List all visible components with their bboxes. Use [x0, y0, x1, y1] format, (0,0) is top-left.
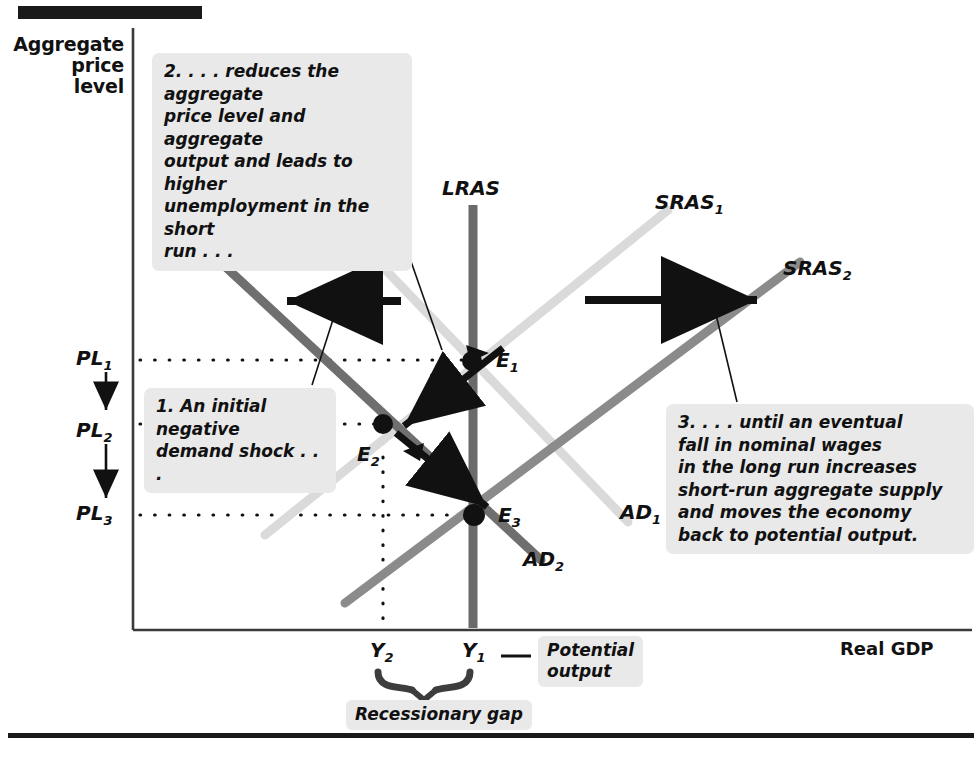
- curve-label-ad2: AD2: [523, 547, 564, 574]
- y-tick-pl2-sub: 2: [103, 430, 112, 445]
- equilibrium-label-e3-sub: 3: [512, 515, 521, 530]
- y-tick-pl1-sub: 1: [103, 358, 112, 373]
- x-tick-y1-text: Y: [462, 638, 476, 662]
- point-e1: [462, 351, 482, 371]
- y-tick-pl3-text: PL: [76, 501, 103, 525]
- callout-step-1-text: 1. An initial negative demand shock . . …: [156, 396, 319, 484]
- equilibrium-label-e1: E1: [496, 348, 519, 375]
- point-e2: [373, 414, 393, 434]
- curve-label-sras1-text: SRAS: [655, 190, 715, 214]
- x-tick-y2: Y2: [370, 638, 394, 665]
- recessionary-gap-brace: [378, 672, 470, 700]
- curve-label-sras2: SRAS2: [783, 256, 852, 283]
- curve-label-ad1-sub: 1: [652, 512, 661, 527]
- callout-step-1: 1. An initial negative demand shock . . …: [144, 388, 336, 493]
- y-tick-pl3: PL3: [76, 501, 112, 528]
- equilibrium-label-e3: E3: [498, 503, 521, 530]
- x-tick-y1-sub: 1: [476, 650, 485, 665]
- curve-label-sras2-sub: 2: [843, 268, 852, 283]
- x-tick-y2-text: Y: [370, 638, 384, 662]
- equilibrium-label-e2: E2: [357, 442, 380, 469]
- y-tick-pl1-text: PL: [76, 346, 103, 370]
- potential-output-tag: Potential output: [538, 636, 643, 687]
- x-tick-y1: Y1: [462, 638, 486, 665]
- equilibrium-label-e1-sub: 1: [510, 360, 519, 375]
- curve-label-sras2-text: SRAS: [783, 256, 843, 280]
- figure-container: Aggregate price level Real GDP: [0, 0, 980, 758]
- callout-step-3: 3. . . . until an eventual fall in nomin…: [666, 404, 974, 554]
- chart-canvas: [0, 0, 980, 758]
- callout-step-3-text: 3. . . . until an eventual fall in nomin…: [678, 412, 942, 545]
- callout-step-2: 2. . . . reduces the aggregate price lev…: [152, 53, 412, 271]
- curve-label-lras-text: LRAS: [442, 176, 500, 200]
- point-e3: [463, 504, 485, 526]
- e1-to-e2-arrow: [404, 345, 503, 426]
- equilibrium-label-e2-sub: 2: [371, 454, 380, 469]
- y-tick-pl2: PL2: [76, 418, 112, 445]
- curve-label-ad2-sub: 2: [555, 559, 564, 574]
- y-tick-pl3-sub: 3: [103, 513, 112, 528]
- curve-label-lras: LRAS: [442, 176, 500, 200]
- recessionary-gap-tag: Recessionary gap: [346, 700, 532, 730]
- curve-label-ad1-text: AD: [620, 500, 652, 524]
- x-tick-y2-sub: 2: [384, 650, 393, 665]
- callout-step-2-text: 2. . . . reduces the aggregate price lev…: [164, 61, 369, 261]
- y-tick-pl1: PL1: [76, 346, 112, 373]
- curve-label-ad2-text: AD: [523, 547, 555, 571]
- equilibrium-label-e2-text: E: [357, 442, 371, 466]
- curve-label-sras1: SRAS1: [655, 190, 724, 217]
- curve-label-sras1-sub: 1: [715, 202, 724, 217]
- equilibrium-label-e1-text: E: [496, 348, 510, 372]
- curve-label-ad1: AD1: [620, 500, 661, 527]
- y-tick-pl2-text: PL: [76, 418, 103, 442]
- equilibrium-label-e3-text: E: [498, 503, 512, 527]
